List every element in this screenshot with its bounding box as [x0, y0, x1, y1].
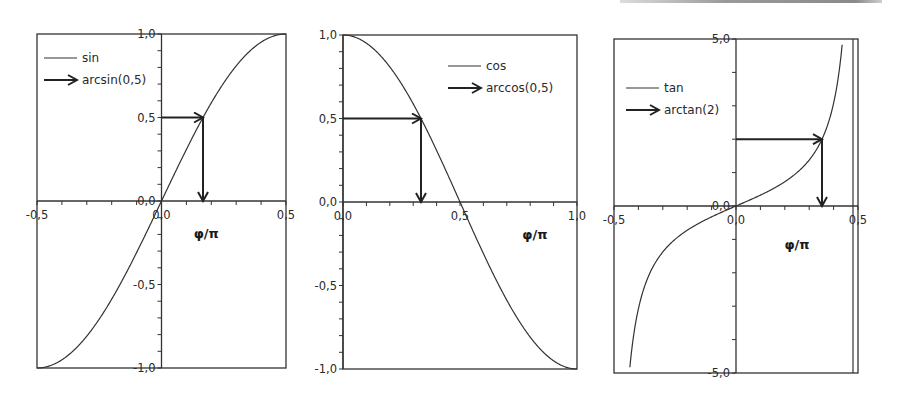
x-axis-title: φ/π [522, 227, 547, 242]
y-tick-label: -1,0 [133, 361, 155, 375]
y-tick-label: 5,0 [712, 32, 730, 46]
y-tick-label: 0,0 [137, 194, 155, 208]
x-tick-label: 0,5 [277, 208, 295, 222]
trig-charts-figure: 1,00,50,0-0,5-1,0-0,50,00,5φ/πsinarcsin(… [0, 0, 897, 400]
legend-label-line: sin [82, 51, 99, 65]
y-tick-label: 1,0 [319, 28, 337, 42]
y-tick-label: 1,0 [137, 27, 155, 41]
y-tick-label: -5,0 [708, 366, 730, 380]
y-tick-label: -0,5 [315, 279, 337, 293]
chart-tan: 5,00,0-5,0-0,50,00,5φ/πtanarctan(2) [603, 32, 867, 380]
x-axis-title: φ/π [194, 226, 219, 241]
y-tick-label: -1,0 [315, 362, 337, 376]
y-tick-label: 0,5 [137, 111, 155, 125]
x-tick-label: 0,0 [334, 209, 352, 223]
x-tick-label: 0,5 [849, 213, 867, 227]
chart-sin: 1,00,50,0-0,5-1,0-0,50,00,5φ/πsinarcsin(… [26, 27, 295, 375]
legend-label-arrow: arcsin(0,5) [82, 73, 146, 87]
x-tick-label: -0,5 [603, 213, 625, 227]
chart-cos: 1,00,50,0-0,5-1,00,00,51,0φ/πcosarccos(0… [315, 28, 587, 376]
legend-label-arrow: arccos(0,5) [486, 81, 553, 95]
y-tick-label: 0,0 [712, 199, 730, 213]
y-tick-label: 0,0 [319, 195, 337, 209]
x-tick-label: -0,5 [26, 208, 48, 222]
x-tick-label: 0,0 [727, 213, 745, 227]
legend-label-line: cos [486, 59, 506, 73]
legend-label-arrow: arctan(2) [664, 103, 719, 117]
y-tick-label: 0,5 [319, 112, 337, 126]
legend-label-line: tan [664, 81, 684, 95]
y-tick-label: -0,5 [133, 278, 155, 292]
x-tick-label: 1,0 [568, 209, 586, 223]
x-axis-title: φ/π [784, 237, 809, 252]
